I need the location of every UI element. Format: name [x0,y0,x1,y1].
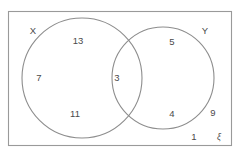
region-value-y-only-bottom: 4 [169,108,174,119]
region-value-outside-bottom: 1 [191,131,196,142]
region-value-x-only-bottom: 11 [70,108,80,119]
region-value-outside-right: 9 [210,107,215,118]
set-label-y: Y [202,25,209,36]
region-value-y-only-top: 5 [169,36,174,47]
venn-canvas: X Y 13 7 11 3 5 4 9 1 ξ [0,0,240,154]
set-label-x: X [30,25,37,36]
region-value-x-only-top: 13 [73,35,84,46]
region-value-x-only-left: 7 [36,72,41,83]
venn-diagram: X Y 13 7 11 3 5 4 9 1 ξ [0,0,240,154]
region-value-intersection: 3 [114,72,119,83]
